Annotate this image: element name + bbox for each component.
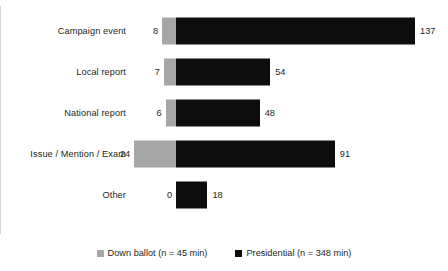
legend-item-down-ballot[interactable]: Down ballot (n = 45 min) bbox=[97, 249, 208, 258]
category-label: National report bbox=[64, 108, 126, 118]
category-label: Other bbox=[103, 190, 126, 200]
value-label-presidential: 54 bbox=[275, 67, 285, 77]
bar-down-ballot bbox=[164, 58, 176, 85]
bar-down-ballot bbox=[134, 140, 176, 167]
bar-presidential bbox=[176, 17, 415, 44]
bar-down-ballot bbox=[162, 17, 176, 44]
chart-row: National report648 bbox=[0, 92, 448, 133]
category-label: Campaign event bbox=[58, 26, 126, 36]
chart-row: Other018 bbox=[0, 174, 448, 215]
presidential-swatch-icon bbox=[235, 250, 242, 257]
value-label-down-ballot: 7 bbox=[155, 67, 160, 77]
legend-label-down-ballot: Down ballot (n = 45 min) bbox=[108, 249, 208, 258]
chart-legend: Down ballot (n = 45 min) Presidential (n… bbox=[0, 244, 448, 264]
bar-presidential bbox=[176, 140, 335, 167]
category-label: Local report bbox=[76, 67, 126, 77]
value-label-down-ballot: 6 bbox=[156, 108, 161, 118]
chart-row: Issue / Mention / Exam2491 bbox=[0, 133, 448, 174]
value-label-down-ballot: 8 bbox=[153, 26, 158, 36]
bar-down-ballot bbox=[166, 99, 176, 126]
value-label-down-ballot: 0 bbox=[167, 190, 172, 200]
category-label: Issue / Mention / Exam bbox=[30, 149, 126, 159]
legend-label-presidential: Presidential (n = 348 min) bbox=[246, 249, 351, 258]
bar-presidential bbox=[176, 181, 207, 208]
chart-row: Local report754 bbox=[0, 51, 448, 92]
diverging-bar-chart: Campaign event8137Local report754Nationa… bbox=[0, 0, 448, 271]
legend-item-presidential[interactable]: Presidential (n = 348 min) bbox=[235, 249, 351, 258]
plot-area: Campaign event8137Local report754Nationa… bbox=[0, 0, 448, 238]
value-label-down-ballot: 24 bbox=[120, 149, 130, 159]
chart-row: Campaign event8137 bbox=[0, 10, 448, 51]
value-label-presidential: 18 bbox=[212, 190, 222, 200]
bar-presidential bbox=[176, 58, 270, 85]
bar-presidential bbox=[176, 99, 260, 126]
value-label-presidential: 48 bbox=[265, 108, 275, 118]
value-label-presidential: 91 bbox=[340, 149, 350, 159]
down-ballot-swatch-icon bbox=[97, 250, 104, 257]
value-label-presidential: 137 bbox=[420, 26, 435, 36]
